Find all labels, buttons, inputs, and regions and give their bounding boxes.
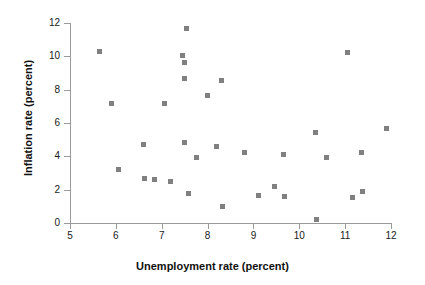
scatter-point: [314, 217, 319, 222]
scatter-point: [359, 150, 364, 155]
x-axis-tick-label-text: 6: [106, 230, 126, 241]
y-axis-tick-label: 4: [40, 151, 60, 161]
scatter-point: [97, 49, 102, 54]
x-axis-tick-label: 9: [243, 230, 263, 241]
x-axis-tick: [70, 223, 71, 229]
x-axis-tick: [253, 223, 254, 229]
scatter-chart-figure: 024681012 56789101112 Unemployment rate …: [0, 0, 425, 285]
x-axis-tick-label-text: 12: [381, 230, 401, 241]
x-axis-line: [70, 223, 392, 224]
scatter-point: [205, 93, 210, 98]
y-axis-tick-label-text: 4: [40, 151, 60, 161]
y-axis-tick-label: 6: [40, 118, 60, 128]
scatter-point: [219, 78, 224, 83]
x-axis-tick-label-text: 8: [198, 230, 218, 241]
scatter-point: [256, 193, 261, 198]
y-axis-tick-label-text: 12: [40, 18, 60, 28]
y-axis-tick-label: 2: [40, 185, 60, 195]
x-axis-tick-label: 6: [106, 230, 126, 241]
x-axis-tick-label: 12: [381, 230, 401, 241]
scatter-point: [182, 140, 187, 145]
scatter-point: [313, 130, 318, 135]
scatter-point: [345, 50, 350, 55]
scatter-point: [220, 204, 225, 209]
y-axis-tick-label-text: 0: [40, 218, 60, 228]
scatter-point: [180, 53, 185, 58]
scatter-point: [384, 126, 389, 131]
y-axis-tick-label: 0: [40, 218, 60, 228]
scatter-point: [109, 101, 114, 106]
x-axis-tick-label-text: 10: [289, 230, 309, 241]
x-axis-tick: [162, 223, 163, 229]
x-axis-tick-label: 10: [289, 230, 309, 241]
x-axis-tick: [208, 223, 209, 229]
scatter-point: [324, 155, 329, 160]
x-axis-tick: [299, 223, 300, 229]
x-axis-tick-label: 8: [198, 230, 218, 241]
plot-area: [70, 23, 391, 223]
scatter-point: [162, 101, 167, 106]
x-axis-tick: [116, 223, 117, 229]
scatter-point: [350, 195, 355, 200]
x-axis-tick-label-text: 7: [152, 230, 172, 241]
scatter-point: [194, 155, 199, 160]
scatter-point: [242, 150, 247, 155]
x-axis-tick: [391, 223, 392, 229]
x-axis-tick: [345, 223, 346, 229]
scatter-point: [282, 194, 287, 199]
x-axis-tick-label: 7: [152, 230, 172, 241]
scatter-point: [186, 191, 191, 196]
scatter-point: [360, 189, 365, 194]
scatter-point: [152, 177, 157, 182]
x-axis-tick-label: 5: [60, 230, 80, 241]
x-axis-tick-label-text: 11: [335, 230, 355, 241]
y-axis-tick-label: 12: [40, 18, 60, 28]
x-axis-title: Unemployment rate (percent): [0, 260, 425, 272]
y-axis-tick-label: 10: [40, 51, 60, 61]
y-axis-tick-label-text: 10: [40, 51, 60, 61]
scatter-point: [116, 167, 121, 172]
y-axis-tick-label-text: 8: [40, 85, 60, 95]
x-axis-tick-label-text: 9: [243, 230, 263, 241]
scatter-point: [141, 142, 146, 147]
scatter-point: [182, 60, 187, 65]
y-axis-title: Inflation rate (percent): [22, 18, 34, 218]
scatter-point: [142, 176, 147, 181]
scatter-point: [182, 76, 187, 81]
scatter-point: [168, 179, 173, 184]
scatter-point: [272, 184, 277, 189]
y-axis-tick-label: 8: [40, 85, 60, 95]
y-axis-tick-label-text: 6: [40, 118, 60, 128]
x-axis-tick-label: 11: [335, 230, 355, 241]
x-axis-tick-label-text: 5: [60, 230, 80, 241]
scatter-point: [214, 144, 219, 149]
scatter-point: [184, 26, 189, 31]
y-axis-tick-label-text: 2: [40, 185, 60, 195]
scatter-point: [281, 152, 286, 157]
